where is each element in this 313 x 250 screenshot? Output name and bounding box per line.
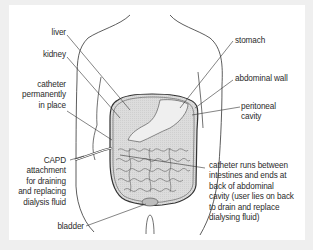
leader-peritoneal xyxy=(192,107,240,115)
label-liver: liver xyxy=(51,28,66,38)
label-catheter-runs: catheter runs between intestines and end… xyxy=(209,161,294,223)
leader-abdominal-wall xyxy=(195,80,233,108)
label-kidney: kidney xyxy=(43,50,66,60)
label-capd: CAPD attachment for draining and replaci… xyxy=(18,156,66,208)
leader-bladder xyxy=(86,204,146,226)
label-abdominal-wall: abdominal wall xyxy=(235,74,288,84)
torso-line-right xyxy=(198,72,203,128)
leader-catheter-in-place xyxy=(67,111,112,140)
label-stomach: stomach xyxy=(235,36,265,46)
label-peritoneal-cavity: peritoneal cavity xyxy=(241,102,276,123)
label-bladder: bladder xyxy=(57,222,84,232)
leader-stomach xyxy=(180,41,233,108)
label-catheter-in-place: catheter permanently in place xyxy=(22,80,66,111)
torso-line-left xyxy=(97,77,101,125)
groin-outline xyxy=(146,215,154,234)
